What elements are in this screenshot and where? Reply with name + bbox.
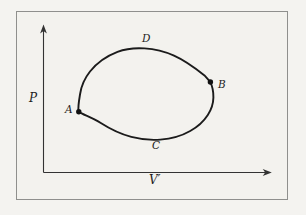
- cycle-curve: [78, 48, 213, 140]
- point-a-dot: [76, 109, 81, 114]
- point-d-label: D: [142, 33, 150, 44]
- x-axis-label: V′: [149, 175, 160, 186]
- point-b-dot: [208, 79, 213, 84]
- y-axis-label: P: [29, 93, 37, 104]
- point-b-label: B: [218, 79, 226, 90]
- point-a-label: A: [65, 104, 73, 115]
- scanned-figure-page: P V′ A B C D: [0, 0, 306, 215]
- point-c-label: C: [152, 140, 160, 151]
